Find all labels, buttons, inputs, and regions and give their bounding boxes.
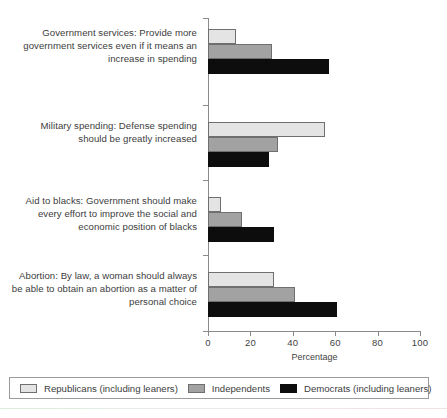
legend-swatch-democrats-icon	[280, 384, 297, 393]
category-label-government-services: Government services: Provide more govern…	[7, 26, 197, 65]
bar-ind-group-2	[208, 137, 278, 152]
legend-label-republicans: Republicans (including leaners)	[44, 383, 178, 394]
bar-dem-group-2	[208, 152, 269, 167]
category-label-line: increase in spending	[7, 52, 197, 65]
x-axis-title: Percentage	[208, 352, 421, 362]
category-label-line: should be greatly increased	[7, 132, 197, 145]
category-label-line: economic position of blacks	[7, 220, 197, 233]
category-label-line: Aid to blacks: Government should make	[7, 194, 197, 207]
y-separator-tick	[203, 18, 209, 19]
x-tick-label-80: 80	[358, 337, 398, 348]
bar-rep-group-1	[208, 29, 236, 44]
legend: Republicans (including leaners) Independ…	[9, 377, 429, 399]
category-label-line: personal choice	[7, 295, 197, 308]
bar-rep-group-4	[208, 272, 274, 287]
scan-artifact-line	[0, 408, 447, 409]
x-tick-label-60: 60	[315, 337, 355, 348]
legend-label-democrats: Democrats (including leaners)	[304, 383, 431, 394]
bar-dem-group-3	[208, 227, 274, 242]
category-label-line: Military spending: Defense spending	[7, 119, 197, 132]
bar-dem-group-4	[208, 302, 337, 317]
x-tick-label-20: 20	[230, 337, 270, 348]
category-label-aid-to-blacks: Aid to blacks: Government should make ev…	[7, 194, 197, 233]
legend-label-independents: Independents	[212, 383, 270, 394]
category-label-line: Abortion: By law, a woman should always	[7, 269, 197, 282]
y-separator-tick	[203, 255, 209, 256]
y-separator-tick	[203, 331, 209, 332]
category-label-line: government services even if it means an	[7, 39, 197, 52]
grouped-bar-chart: Government services: Provide more govern…	[0, 0, 447, 418]
x-tick-label-40: 40	[273, 337, 313, 348]
x-tick-80	[378, 331, 379, 336]
bar-rep-group-3	[208, 197, 221, 212]
legend-swatch-republicans-icon	[20, 384, 37, 393]
x-tick-label-0: 0	[188, 337, 228, 348]
bar-dem-group-1	[208, 59, 329, 74]
x-axis-line	[208, 331, 421, 332]
category-label-military-spending: Military spending: Defense spending shou…	[7, 119, 197, 145]
category-label-line: Government services: Provide more	[7, 26, 197, 39]
category-label-line: be able to obtain an abortion as a matte…	[7, 282, 197, 295]
bar-ind-group-4	[208, 287, 295, 302]
y-separator-tick	[203, 105, 209, 106]
legend-item-independents: Independents	[188, 383, 270, 394]
y-separator-tick	[203, 180, 209, 181]
x-tick-40	[293, 331, 294, 336]
category-label-abortion: Abortion: By law, a woman should always …	[7, 269, 197, 308]
x-tick-label-100: 100	[400, 337, 440, 348]
legend-swatch-independents-icon	[188, 384, 205, 393]
plot-area	[208, 18, 420, 328]
bar-ind-group-3	[208, 212, 242, 227]
category-label-line: every effort to improve the social and	[7, 207, 197, 220]
x-tick-100	[420, 331, 421, 336]
legend-item-republicans: Republicans (including leaners)	[20, 383, 178, 394]
bar-rep-group-2	[208, 122, 325, 137]
x-tick-20	[250, 331, 251, 336]
x-tick-60	[335, 331, 336, 336]
bar-ind-group-1	[208, 44, 272, 59]
legend-item-democrats: Democrats (including leaners)	[280, 383, 431, 394]
